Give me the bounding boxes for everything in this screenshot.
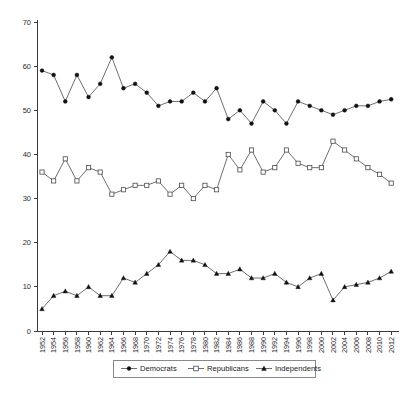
legend-label: Independents — [275, 364, 321, 373]
data-point-marker — [285, 122, 289, 126]
data-point-marker — [215, 86, 219, 90]
data-point-marker — [203, 183, 207, 187]
data-point-marker — [377, 172, 381, 176]
data-point-marker — [156, 179, 160, 183]
legend-label: Democrats — [140, 364, 177, 373]
x-axis-tick-label: 1962 — [96, 337, 105, 353]
data-point-marker — [343, 108, 347, 112]
data-point-marker — [296, 100, 300, 104]
x-axis-tick-label: 1958 — [73, 337, 82, 353]
data-point-marker — [110, 192, 114, 196]
x-axis-tick-label: 2002 — [329, 337, 338, 353]
data-point-marker — [75, 73, 79, 77]
data-point-marker — [168, 100, 172, 104]
data-point-marker — [308, 166, 312, 170]
data-point-marker — [319, 108, 323, 112]
x-axis-tick-label: 1960 — [84, 337, 93, 353]
data-point-marker — [343, 148, 347, 152]
data-point-marker — [191, 196, 195, 200]
data-point-marker — [180, 183, 184, 187]
data-point-marker — [121, 188, 125, 192]
data-point-marker — [98, 170, 102, 174]
data-point-marker — [238, 168, 242, 172]
x-axis-tick-label: 1968 — [131, 337, 140, 353]
data-point-marker — [354, 157, 358, 161]
legend-marker-square-icon — [194, 366, 199, 371]
data-point-marker — [86, 166, 90, 170]
data-point-marker — [87, 95, 91, 99]
legend-label: Republicans — [207, 364, 249, 373]
x-axis-tick-label: 1986 — [235, 337, 244, 353]
x-axis-tick-label: 1990 — [259, 337, 268, 353]
data-point-marker — [319, 166, 323, 170]
x-axis-tick-label: 1970 — [142, 337, 151, 353]
y-axis-tick-label: 40 — [23, 150, 31, 159]
data-point-marker — [145, 91, 149, 95]
x-axis-tick-label: 2008 — [364, 337, 373, 353]
x-axis-tick-label: 1992 — [270, 337, 279, 353]
y-axis-tick-label: 0 — [27, 327, 31, 336]
data-point-marker — [261, 170, 265, 174]
data-point-marker — [145, 183, 149, 187]
x-axis-tick-label: 1974 — [166, 337, 175, 353]
data-point-marker — [180, 100, 184, 104]
x-axis-tick-label: 2010 — [375, 337, 384, 353]
x-axis-tick-label: 1996 — [294, 337, 303, 353]
data-point-marker — [226, 152, 230, 156]
x-axis-tick-label: 1976 — [177, 337, 186, 353]
data-point-marker — [40, 170, 44, 174]
data-point-marker — [308, 104, 312, 108]
data-point-marker — [366, 166, 370, 170]
data-point-marker — [378, 100, 382, 104]
data-point-marker — [133, 183, 137, 187]
data-point-marker — [226, 117, 230, 121]
data-point-marker — [389, 97, 393, 101]
data-point-marker — [133, 82, 137, 86]
chart-canvas: 010203040506070 195219541956195819601962… — [0, 0, 413, 394]
y-axis-tick-label: 30 — [23, 194, 31, 203]
legend-marker-circle-icon — [127, 367, 131, 371]
data-point-marker — [249, 148, 253, 152]
x-axis-tick-label: 1972 — [154, 337, 163, 353]
data-point-marker — [273, 108, 277, 112]
data-point-marker — [331, 113, 335, 117]
x-axis-tick-label: 1964 — [107, 337, 116, 353]
x-axis-tick-label: 1954 — [49, 337, 58, 353]
data-point-marker — [214, 188, 218, 192]
x-axis-tick-label: 2012 — [387, 337, 396, 353]
x-axis-tick-label: 1978 — [189, 337, 198, 353]
data-point-marker — [52, 73, 56, 77]
data-point-marker — [40, 69, 44, 73]
y-axis-tick-label: 60 — [23, 62, 31, 71]
data-point-marker — [110, 55, 114, 59]
data-point-marker — [250, 122, 254, 126]
data-point-marker — [389, 181, 393, 185]
data-point-marker — [284, 148, 288, 152]
x-axis-tick-label: 1984 — [224, 337, 233, 353]
x-axis-tick-label: 1982 — [212, 337, 221, 353]
x-axis-tick-label: 1966 — [119, 337, 128, 353]
y-axis-tick-label: 20 — [23, 238, 31, 247]
data-point-marker — [156, 104, 160, 108]
data-point-marker — [168, 192, 172, 196]
x-axis-tick-label: 2004 — [340, 337, 349, 353]
data-point-marker — [238, 108, 242, 112]
data-point-marker — [98, 82, 102, 86]
data-point-marker — [261, 100, 265, 104]
y-axis-tick-label: 50 — [23, 106, 31, 115]
x-axis-tick-label: 2006 — [352, 337, 361, 353]
y-axis-tick-label: 70 — [23, 18, 31, 27]
chart-background — [0, 0, 413, 394]
data-point-marker — [366, 104, 370, 108]
x-axis-tick-label: 2000 — [317, 337, 326, 353]
y-axis-tick-label: 10 — [23, 282, 31, 291]
x-axis-tick-label: 1980 — [201, 337, 210, 353]
data-point-marker — [63, 100, 67, 104]
data-point-marker — [331, 139, 335, 143]
data-point-marker — [75, 179, 79, 183]
x-axis-tick-label: 1956 — [61, 337, 70, 353]
x-axis-tick-label: 1998 — [305, 337, 314, 353]
x-axis-tick-label: 1994 — [282, 337, 291, 353]
data-point-marker — [203, 100, 207, 104]
data-point-marker — [273, 166, 277, 170]
